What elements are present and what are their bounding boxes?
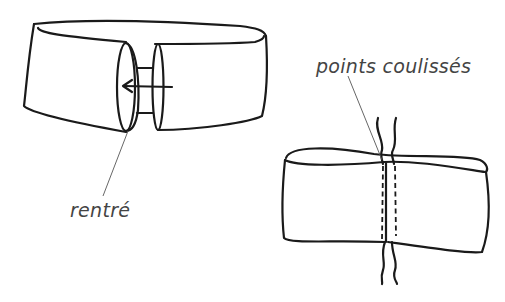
- label-points-coulisses: points coulissés: [316, 55, 471, 77]
- sewing-diagram: [0, 0, 505, 302]
- band-open-figure: [24, 21, 267, 196]
- band-sewn-figure: [283, 76, 489, 284]
- label-rentre: rentré: [70, 199, 130, 221]
